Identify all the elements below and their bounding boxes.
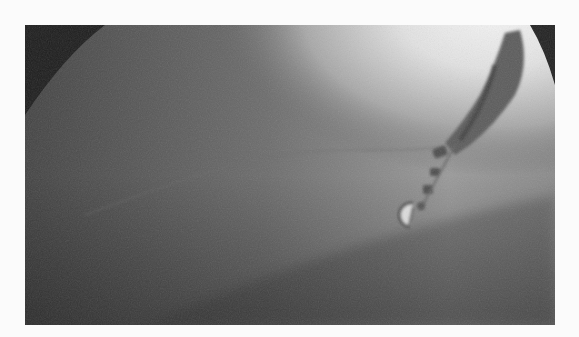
fluoroscopy-image	[25, 25, 555, 325]
xray-scene	[25, 25, 555, 325]
